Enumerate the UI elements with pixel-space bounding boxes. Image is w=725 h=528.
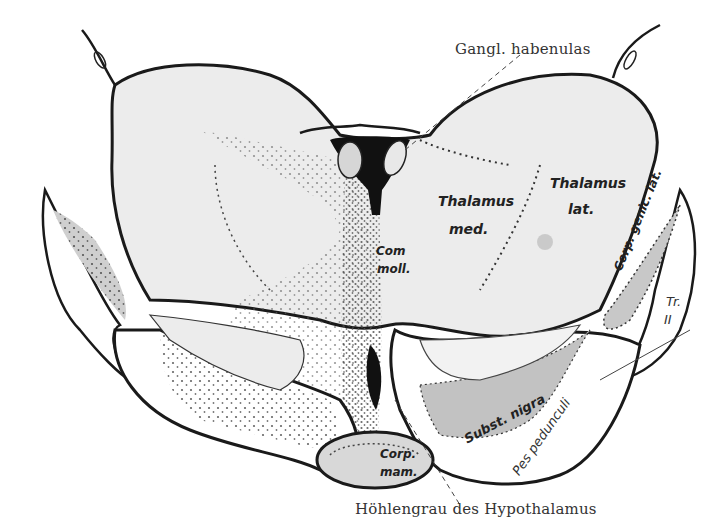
label-tr-line2: II xyxy=(664,313,672,326)
habenular-nucleus-left xyxy=(338,142,362,178)
label-thalamus-lat-line1: Thalamus xyxy=(550,176,626,190)
label-tr-line1: Tr. xyxy=(666,295,681,308)
label-thalamus-med-line1: Thalamus xyxy=(438,194,514,208)
label-thalamus-lat-line2: lat. xyxy=(568,202,594,216)
left-fibre-stump xyxy=(82,30,115,85)
label-thalamus-med-line2: med. xyxy=(449,222,488,236)
dark-spot xyxy=(537,234,553,250)
label-gangl-habenulae: Gangl. habenulas xyxy=(455,42,591,57)
label-com-moll-line2: moll. xyxy=(377,263,411,275)
label-corp-mam-line1: Corp. xyxy=(380,448,416,460)
label-hoehlengrau-hypothalamus: Höhlengrau des Hypothalamus xyxy=(355,502,597,517)
right-fibre-stump xyxy=(613,25,660,78)
label-com-moll-line1: Com xyxy=(376,245,406,257)
label-corp-mam-line2: mam. xyxy=(380,466,418,478)
diencephalon-section-figure: Gangl. habenulas Thalamus med. Thalamus … xyxy=(0,0,725,528)
